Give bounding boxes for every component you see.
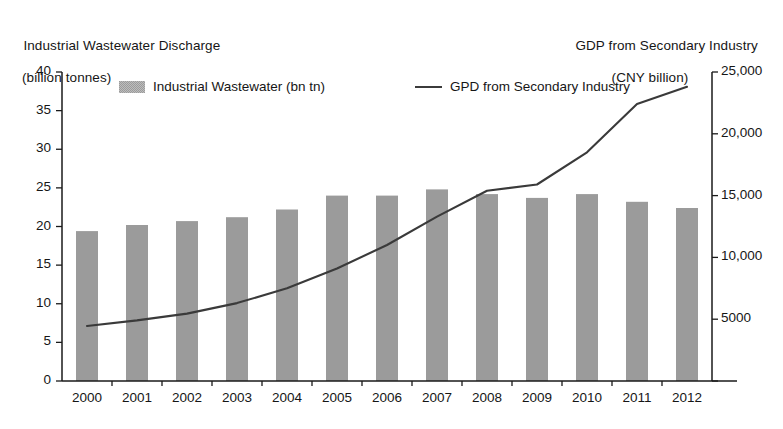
bar <box>526 198 548 381</box>
x-tick-label: 2012 <box>664 390 710 405</box>
x-tick-label: 2004 <box>264 390 310 405</box>
left-tick-label: 30 <box>17 140 51 155</box>
bar <box>676 208 698 381</box>
bar <box>76 231 98 381</box>
bar <box>626 202 648 381</box>
right-tick-label: 20,000 <box>721 125 762 140</box>
left-tick-label: 25 <box>17 179 51 194</box>
bar <box>426 189 448 381</box>
x-tick-label: 2009 <box>514 390 560 405</box>
x-tick-label: 2010 <box>564 390 610 405</box>
bar <box>576 194 598 381</box>
left-tick-label: 35 <box>17 102 51 117</box>
x-tick-label: 2006 <box>364 390 410 405</box>
right-tick-label: 10,000 <box>721 248 762 263</box>
left-tick-label: 10 <box>17 295 51 310</box>
right-tick-label: 15,000 <box>721 187 762 202</box>
bars-group <box>76 189 698 381</box>
x-tick-label: 2011 <box>614 390 660 405</box>
bar <box>276 210 298 382</box>
x-tick-label: 2005 <box>314 390 360 405</box>
right-tick-label: 25,000 <box>721 63 762 78</box>
chart-container: Industrial Wastewater Discharge (billion… <box>0 0 783 429</box>
bar <box>476 194 498 381</box>
bar <box>326 196 348 381</box>
right-tick-label: 5000 <box>721 310 751 325</box>
x-tick-label: 2008 <box>464 390 510 405</box>
bar <box>226 217 248 381</box>
bar <box>126 225 148 381</box>
left-tick-label: 40 <box>17 63 51 78</box>
bar <box>376 196 398 381</box>
plot-area <box>0 0 783 429</box>
left-tick-label: 0 <box>17 372 51 387</box>
x-tick-label: 2002 <box>164 390 210 405</box>
left-tick-label: 20 <box>17 218 51 233</box>
x-tick-label: 2000 <box>64 390 110 405</box>
bar <box>176 221 198 381</box>
x-tick-label: 2003 <box>214 390 260 405</box>
left-tick-label: 5 <box>17 333 51 348</box>
left-tick-label: 15 <box>17 256 51 271</box>
x-tick-label: 2001 <box>114 390 160 405</box>
x-tick-label: 2007 <box>414 390 460 405</box>
